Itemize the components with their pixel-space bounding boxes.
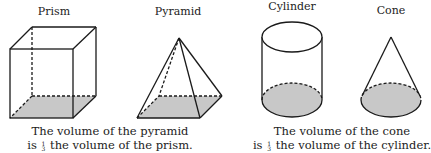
caption-line2: is 13 the volume of the prism. <box>27 138 192 152</box>
caption-suffix: the volume of the prism. <box>50 138 193 152</box>
cylinder-label: Cylinder <box>268 0 316 13</box>
cone-figure <box>361 37 421 117</box>
cylinder-figure <box>262 22 322 117</box>
caption-line1: The volume of the cone <box>253 124 431 138</box>
one-third-fraction: 13 <box>42 141 46 151</box>
caption-line2: is 13 the volume of the cylinder. <box>253 138 431 152</box>
prism-label: Prism <box>38 5 70 18</box>
one-third-fraction: 13 <box>267 141 271 151</box>
pyramid-prism-caption: The volume of the pyramid is 13 the volu… <box>27 124 192 152</box>
prism-figure <box>10 27 96 118</box>
cone-label: Cone <box>377 4 406 17</box>
cone-cylinder-caption: The volume of the cone is 13 the volume … <box>253 124 431 152</box>
pyramid-label: Pyramid <box>155 5 201 18</box>
caption-prefix: is <box>253 138 263 152</box>
pyramid-figure <box>137 38 222 118</box>
caption-line1: The volume of the pyramid <box>27 124 192 138</box>
caption-prefix: is <box>27 138 37 152</box>
caption-suffix: the volume of the cylinder. <box>276 138 431 152</box>
